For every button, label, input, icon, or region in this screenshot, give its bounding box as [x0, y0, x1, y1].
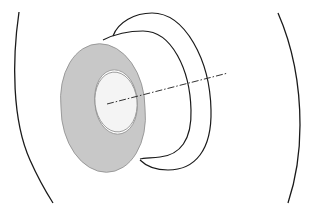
diagram-canvas [0, 0, 323, 219]
cylinder-diagram [0, 0, 323, 219]
background [0, 0, 323, 219]
